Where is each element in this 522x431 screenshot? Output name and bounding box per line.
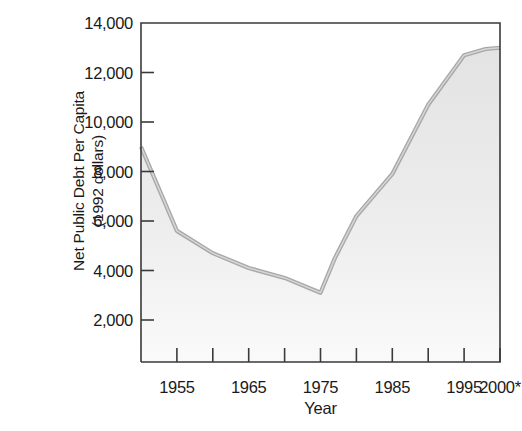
chart-plot-area <box>0 0 522 431</box>
chart-figure: Net Public Debt Per Capita (1992 dollars… <box>0 0 522 431</box>
area-fill <box>141 48 500 362</box>
